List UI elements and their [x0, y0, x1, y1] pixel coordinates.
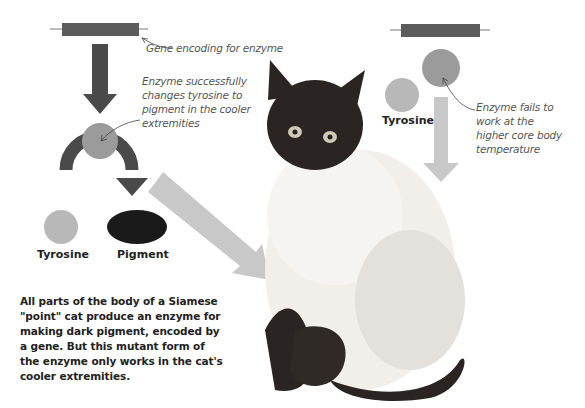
description-text: All parts of the body of a Siamese "poin… — [20, 294, 230, 384]
left-enzyme-note-line: extremities — [142, 116, 282, 130]
description-line: All parts of the body of a Siamese — [20, 294, 230, 309]
right-enzyme-note-line: work at the — [476, 114, 585, 128]
right-enzyme-note-line: temperature — [476, 142, 585, 156]
left-enzyme-note: Enzyme successfully changes tyrosine to … — [142, 74, 282, 130]
left-enzyme-note-line: Enzyme successfully — [142, 74, 282, 88]
right-enzyme-circle-icon — [422, 49, 460, 87]
right-enzyme-note: Enzyme fails to work at the higher core … — [476, 100, 585, 156]
dark-down-arrow-icon — [83, 44, 117, 114]
light-down-arrow-icon — [423, 97, 459, 182]
left-gene-icon — [50, 23, 148, 36]
right-tyrosine-circle-icon — [385, 78, 419, 112]
description-line: "point" cat produce an enzyme for — [20, 309, 230, 324]
left-enzyme-note-line: pigment in the cooler — [142, 102, 282, 116]
left-enzyme-note-line: changes tyrosine to — [142, 88, 282, 102]
right-enzyme-note-line: Enzyme fails to — [476, 100, 585, 114]
description-line: a gene. But this mutant form of — [20, 339, 230, 354]
left-tyrosine-label: Tyrosine — [37, 248, 89, 261]
right-tyrosine-label: Tyrosine — [382, 114, 434, 127]
left-enzyme-circle-icon — [82, 123, 118, 159]
right-enzyme-note-line: higher core body — [476, 128, 585, 142]
right-gene-icon — [390, 24, 490, 37]
description-line: cooler extremities. — [20, 369, 230, 384]
pigment-label: Pigment — [117, 248, 169, 261]
description-line: the enzyme only works in the cat's — [20, 354, 230, 369]
pigment-ellipse-icon — [107, 210, 167, 244]
description-line: making dark pigment, encoded by — [20, 324, 230, 339]
left-tyrosine-circle-icon — [44, 210, 78, 244]
gene-label: Gene encoding for enzyme — [146, 41, 283, 55]
